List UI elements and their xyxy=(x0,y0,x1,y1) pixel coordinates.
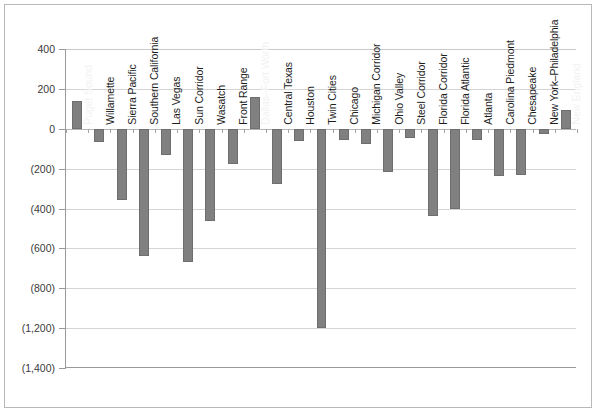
x-axis-tick xyxy=(488,129,489,133)
category-label: Atlanta xyxy=(482,93,494,125)
bar xyxy=(383,129,393,172)
bar xyxy=(161,129,171,155)
category-label: Sierra Pacific xyxy=(126,64,138,124)
bar xyxy=(494,129,504,176)
y-axis-tick xyxy=(59,248,66,249)
y-axis-tick xyxy=(59,328,66,329)
x-axis-tick xyxy=(66,129,67,133)
category-label: Las Vegas xyxy=(170,77,182,125)
gridline xyxy=(66,328,576,329)
x-axis-tick xyxy=(133,129,134,133)
bar xyxy=(472,129,482,140)
bar xyxy=(294,129,304,141)
y-axis-tick-label: (800) xyxy=(30,282,55,294)
bar xyxy=(94,129,104,142)
y-axis-tick-label: (400) xyxy=(30,203,55,215)
category-label: Puget Sound xyxy=(82,65,94,125)
category-label: New England xyxy=(570,63,582,124)
y-axis-tick xyxy=(59,288,66,289)
category-label: Houston xyxy=(304,86,316,124)
y-axis-tick xyxy=(59,209,66,210)
bar xyxy=(516,129,526,175)
x-axis-tick xyxy=(466,129,467,133)
y-axis-tick-label: (200) xyxy=(30,163,55,175)
bar xyxy=(317,129,327,328)
gridline xyxy=(66,89,576,90)
bar xyxy=(72,101,82,129)
x-axis-tick xyxy=(177,129,178,133)
x-axis-tick xyxy=(510,129,511,133)
x-axis-tick xyxy=(110,129,111,133)
category-label: New York–Philadelphia xyxy=(548,19,560,124)
bar xyxy=(117,129,127,200)
category-label: Florida Atlantic xyxy=(459,57,471,124)
category-label: Chicago xyxy=(348,87,360,125)
y-axis-tick-label: (1,400) xyxy=(22,362,55,374)
x-axis-tick xyxy=(377,129,378,133)
bar xyxy=(361,129,371,144)
y-axis-tick xyxy=(59,129,66,130)
bar xyxy=(405,129,415,138)
gridline xyxy=(66,49,576,50)
category-label: Dallas–Fort Worth xyxy=(259,42,271,125)
category-label: Sun Corridor xyxy=(193,66,205,124)
x-axis-tick xyxy=(88,129,89,133)
x-axis-tick xyxy=(577,129,578,133)
x-axis-tick xyxy=(222,129,223,133)
bar xyxy=(339,129,349,140)
category-label: Southern California xyxy=(148,37,160,125)
x-axis-tick xyxy=(444,129,445,133)
y-axis-tick-label: 200 xyxy=(37,83,55,95)
x-axis-tick xyxy=(199,129,200,133)
x-axis-tick xyxy=(555,129,556,133)
bar xyxy=(450,129,460,209)
category-label: Ohio Valley xyxy=(393,73,405,125)
x-axis-tick xyxy=(421,129,422,133)
bar xyxy=(205,129,215,222)
bar xyxy=(228,129,238,164)
y-axis-tick xyxy=(59,49,66,50)
y-axis-labels: 4002000(200)(400)(600)(800)(1,200)(1,400… xyxy=(5,49,59,368)
x-axis-tick xyxy=(355,129,356,133)
y-axis-tick xyxy=(59,368,66,369)
x-axis-tick xyxy=(288,129,289,133)
bar xyxy=(139,129,149,257)
x-axis-tick xyxy=(310,129,311,133)
x-axis-tick xyxy=(155,129,156,133)
bar xyxy=(539,129,549,134)
x-axis-tick xyxy=(266,129,267,133)
category-label: Front Range xyxy=(237,67,249,124)
category-label: Steel Corridor xyxy=(415,61,427,124)
category-label: Chesapeake xyxy=(526,67,538,125)
y-axis-tick-label: 0 xyxy=(49,123,55,135)
y-axis-tick xyxy=(59,169,66,170)
category-label: Willamette xyxy=(104,77,116,125)
plot-area: Puget SoundWillametteSierra PacificSouth… xyxy=(65,49,576,368)
category-label: Florida Corridor xyxy=(437,53,449,124)
x-axis-tick xyxy=(399,129,400,133)
category-label: Twin Cities xyxy=(326,75,338,125)
bar xyxy=(272,129,282,184)
category-label: Central Texas xyxy=(282,62,294,125)
x-axis-tick xyxy=(333,129,334,133)
y-axis-tick-label: 400 xyxy=(37,43,55,55)
category-label: Michigan Corridor xyxy=(370,44,382,125)
x-axis-tick xyxy=(533,129,534,133)
x-axis-tick xyxy=(244,129,245,133)
y-axis-tick-label: (600) xyxy=(30,242,55,254)
bar xyxy=(428,129,438,217)
bar xyxy=(183,129,193,263)
y-axis-tick-label: (1,200) xyxy=(22,322,55,334)
category-label: Wasatch xyxy=(215,85,227,125)
y-axis-tick xyxy=(59,89,66,90)
chart-frame: 4002000(200)(400)(600)(800)(1,200)(1,400… xyxy=(4,4,592,408)
category-label: Carolina Piedmont xyxy=(504,40,516,125)
